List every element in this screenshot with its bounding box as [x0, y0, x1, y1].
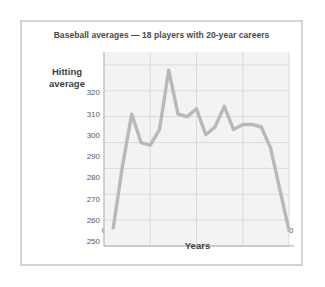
plot-area: Hitting average 250 260 270 280 290 300 … [22, 22, 305, 268]
chart-plot-svg [22, 22, 305, 268]
figure-frame: Baseball averages — 18 players with 20-y… [20, 20, 303, 266]
x-axis-title: Years [100, 240, 295, 251]
